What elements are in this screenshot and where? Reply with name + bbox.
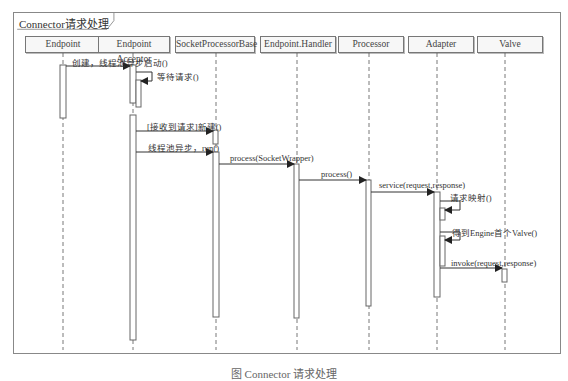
message-request-mapping: 请求映射() — [450, 191, 492, 203]
message-process-socketwrapper: process(SocketWrapper) — [230, 153, 314, 163]
message-new-on-request: [接收到请求]新建() — [147, 120, 221, 132]
message-service: service(request,response) — [379, 180, 465, 190]
message-wait-request: 等待请求() — [157, 70, 199, 82]
message-invoke: invoke(request,response) — [451, 258, 536, 268]
message-threadpool-run: 线程池异步，run() — [148, 141, 219, 153]
message-create-start: 创建，线程池异步启动() — [72, 56, 168, 68]
figure-caption: 图 Connector 请求处理 — [0, 365, 568, 381]
message-get-first-valve: 得到Engine首个Valve() — [452, 226, 537, 238]
message-process: process() — [321, 169, 352, 179]
